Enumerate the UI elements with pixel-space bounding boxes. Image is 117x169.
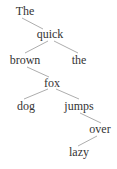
- tree-edge-fox-to-jumps: [56, 89, 79, 99]
- tree-node-dog[interactable]: dog: [17, 100, 35, 112]
- tree-node-the1[interactable]: The: [16, 5, 35, 17]
- tree-edge-quick-to-the2: [54, 41, 78, 53]
- tree-node-lazy[interactable]: lazy: [69, 146, 89, 158]
- tree-node-jumps[interactable]: jumps: [64, 100, 93, 112]
- tree-diagram-canvas: Thequickbrownthefoxdogjumpsoverlazy: [0, 0, 117, 169]
- tree-node-quick[interactable]: quick: [37, 28, 64, 40]
- tree-node-fox[interactable]: fox: [44, 77, 60, 89]
- tree-node-over[interactable]: over: [89, 123, 110, 135]
- tree-node-brown[interactable]: brown: [10, 54, 41, 66]
- tree-edge-fox-to-dog: [24, 89, 48, 99]
- tree-node-the2[interactable]: the: [72, 54, 87, 66]
- tree-edge-quick-to-brown: [25, 41, 48, 53]
